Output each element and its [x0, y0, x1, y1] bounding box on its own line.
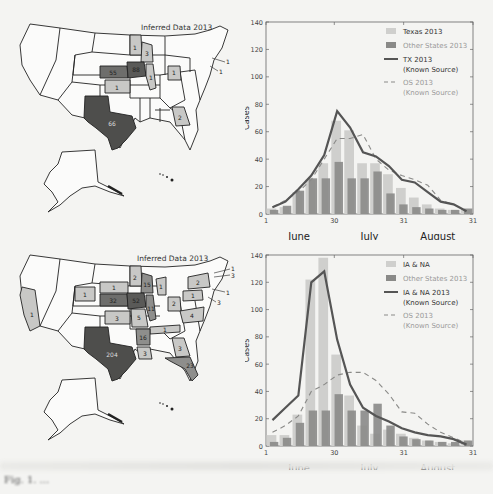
- svg-text:(Known Source): (Known Source): [403, 322, 458, 330]
- bar-other-states: [386, 426, 394, 446]
- epidemic-curve-top: 020406080100120140Cases1303131JuneJulyAu…: [245, 0, 493, 240]
- label-mn: 1: [133, 44, 137, 51]
- label-ma: 3: [231, 272, 235, 279]
- bar-other-states: [296, 191, 304, 214]
- y-tick-label: 80: [255, 101, 263, 109]
- bar-other-states: [296, 423, 304, 446]
- bar-other-states: [270, 210, 278, 214]
- svg-text:(Known Source): (Known Source): [403, 299, 458, 307]
- map-title: Inferred Data 2013: [137, 254, 208, 263]
- svg-text:(Known Source): (Known Source): [403, 66, 458, 74]
- y-tick-label: 120: [251, 46, 263, 54]
- y-tick-label: 40: [255, 388, 263, 396]
- map-bottom: 1 1 1 2 15 1 32 52 11 3 5 2 1 2 4 1 16 3…: [0, 235, 245, 455]
- x-tick-label: 31: [400, 217, 408, 225]
- y-axis-label: Cases: [245, 106, 251, 130]
- label-ct: 1: [226, 289, 230, 296]
- bar-other-states: [348, 411, 356, 446]
- label-tx: 66: [108, 120, 116, 127]
- label-ny: 2: [196, 279, 200, 286]
- legend-label: Other States 2013: [403, 275, 467, 283]
- bar-other-states: [451, 210, 459, 214]
- bar-other-states: [360, 411, 368, 446]
- legend-label: IA & NA: [403, 261, 430, 269]
- label-ks: 3: [115, 315, 119, 322]
- label-il: 11: [147, 305, 155, 312]
- label-ct: 1: [226, 58, 230, 65]
- y-tick-label: 20: [255, 183, 263, 191]
- map-top: 1 3 55 88 1 1 1 2 66 1 1 Inferred Data 2…: [0, 0, 245, 235]
- label-nj: 3: [217, 299, 221, 306]
- label-il: 1: [149, 74, 153, 81]
- label-nh: 1: [231, 265, 235, 272]
- bar-other-states: [451, 442, 459, 446]
- y-tick-label: 40: [255, 156, 263, 164]
- month-label: July: [360, 231, 379, 240]
- bar-other-states: [348, 178, 356, 214]
- month-label: June: [287, 231, 310, 240]
- bar-other-states: [283, 206, 291, 214]
- bar-other-states: [309, 411, 317, 446]
- bar-other-states: [373, 404, 381, 446]
- alaska: [44, 378, 124, 440]
- label-wi: 15: [143, 281, 151, 288]
- chart-top: 020406080100120140Cases1303131JuneJulyAu…: [245, 0, 493, 240]
- label-mi: 1: [159, 283, 163, 290]
- caption-blur: [0, 462, 493, 470]
- bar-other-states: [373, 171, 381, 214]
- us-map-top: 1 3 55 88 1 1 1 2 66 1 1 Inferred Data 2…: [0, 0, 245, 235]
- label-ar: 16: [139, 334, 147, 341]
- label-tx: 204: [106, 351, 118, 358]
- bar-other-states: [335, 394, 343, 446]
- y-tick-label: 120: [251, 279, 263, 287]
- bar-other-states: [438, 210, 446, 214]
- us-map-bottom: 1 1 1 2 15 1 32 52 11 3 5 2 1 2 4 1 16 3…: [0, 235, 245, 455]
- label-fl: 23: [186, 362, 194, 369]
- x-tick-label: 31: [469, 217, 477, 225]
- x-tick-label: 1: [264, 217, 268, 225]
- bar-other-states: [412, 207, 420, 214]
- legend-label: IA & NA 2013: [403, 289, 450, 297]
- x-tick-label: 1: [264, 449, 268, 457]
- bar-other-states: [425, 441, 433, 446]
- x-tick-label: 30: [330, 217, 338, 225]
- y-tick-label: 100: [251, 73, 263, 81]
- label-sd: 1: [112, 284, 116, 291]
- label-la: 3: [143, 350, 147, 357]
- label-ne: 32: [109, 297, 117, 304]
- label-pa: 1: [191, 292, 195, 299]
- label-oh: 2: [172, 300, 176, 307]
- y-tick-label: 20: [255, 415, 263, 423]
- y-tick-label: 140: [251, 252, 263, 260]
- bar-other-states: [360, 178, 368, 214]
- y-tick-label: 100: [251, 306, 263, 314]
- bar-other-states: [438, 442, 446, 446]
- label-ne: 55: [109, 69, 117, 76]
- x-tick-label: 30: [330, 449, 338, 457]
- legend-label: Other States 2013: [403, 42, 467, 50]
- label-ga: 2: [178, 114, 182, 121]
- alaska: [44, 150, 124, 212]
- y-axis-label: Cases: [245, 339, 251, 363]
- x-tick-label: 31: [469, 449, 477, 457]
- label-oh: 1: [172, 69, 176, 76]
- y-tick-label: 80: [255, 333, 263, 341]
- y-tick-label: 0: [259, 443, 263, 451]
- map-title: Inferred Data 2013: [141, 23, 212, 32]
- bar-other-states: [399, 436, 407, 446]
- svg-text:(Known Source): (Known Source): [403, 89, 458, 97]
- bar-other-states: [386, 193, 394, 214]
- label-ks: 1: [115, 84, 119, 91]
- bar-other-states: [322, 411, 330, 446]
- plot-frame: [266, 22, 473, 214]
- bar-other-states: [412, 439, 420, 446]
- label-nj: 1: [219, 68, 223, 75]
- label-va: 4: [190, 312, 194, 319]
- epidemic-curve-bottom: 020406080100120140Cases1303131JuneJulyAu…: [245, 240, 493, 470]
- label-ca: 1: [30, 311, 34, 318]
- legend-label: Texas 2013: [402, 28, 442, 36]
- label-tn: 1: [163, 326, 167, 333]
- label-mo: 5: [137, 314, 141, 321]
- bar-other-states: [270, 442, 278, 446]
- bar-other-states: [283, 438, 291, 446]
